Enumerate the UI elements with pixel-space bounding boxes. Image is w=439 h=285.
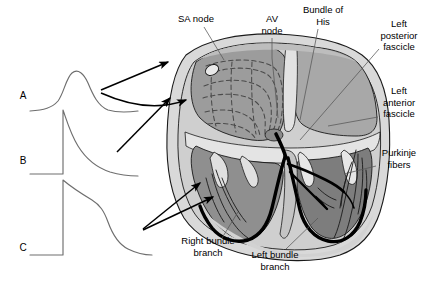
arrow-a-upper [101, 62, 168, 90]
trace-label-a: A [20, 90, 27, 101]
heart-conduction-diagram: A B C SA node AVnode Bundle ofH [0, 0, 439, 285]
label-av-node: AVnode [261, 13, 282, 36]
trace-label-c: C [19, 242, 26, 253]
label-left-anterior-fascicle: Leftanteriorfascicle [383, 85, 415, 119]
label-purkinje-fibers: Purkinjefibers [382, 147, 416, 170]
trace-a-path [30, 71, 138, 112]
action-potential-traces [30, 71, 152, 255]
heart-illustration [167, 34, 390, 261]
label-bundle-of-his: Bundle ofHis [303, 4, 344, 27]
label-left-posterior-fascicle: Leftposteriorfascicle [381, 18, 418, 52]
trace-label-b: B [20, 155, 27, 166]
label-sa-node: SA node [178, 13, 214, 24]
interatrial-septum [283, 46, 297, 132]
trace-labels: A B C [19, 90, 26, 253]
figure-canvas: A B C SA node AVnode Bundle ofH [0, 0, 439, 285]
trace-c-path [30, 180, 152, 255]
arrow-b [117, 98, 170, 152]
trace-b-path [30, 110, 138, 176]
